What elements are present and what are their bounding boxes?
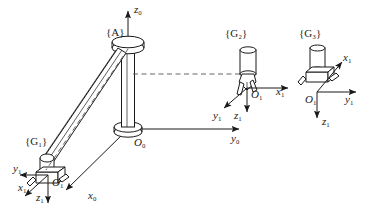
axis-label-y1-right: y1 [345, 94, 353, 106]
axis-label-y1-middle: y1 [213, 110, 221, 122]
frame-label-G2-middle: {G₂} [225, 28, 247, 39]
origin-label-O1-right: O1 [305, 94, 316, 106]
origin-label-O1-middle: O1 [251, 89, 262, 101]
upper-arm-top-edge [40, 50, 116, 162]
gripper-right-cylinder-top [310, 45, 325, 51]
origin-label-O0: O0 [134, 137, 145, 149]
frame-label-A: {A} [106, 27, 125, 38]
axis-label-x0: x0 [88, 190, 96, 202]
robot-body [40, 36, 144, 174]
gripper-right [298, 45, 339, 85]
axis-label-z0: z0 [134, 4, 142, 16]
gripper-middle-cylinder-top [240, 47, 256, 53]
vertical-column [122, 48, 135, 127]
axis-label-y1-left: y1 [13, 163, 21, 175]
frame-label-G1-left: {G₁} [25, 136, 47, 147]
gripper-right-finger-a [298, 76, 306, 85]
origin-label-O1-left: O1 [52, 177, 63, 189]
upper-arm-link [42, 48, 126, 167]
axis-label-z1-left: z1 [36, 192, 44, 204]
robot-frames-diagram: {A} z0 O0 y0 x0 {G₁} O1 y1 x1 z1 {G₂} O1… [0, 0, 370, 212]
axis-y1-middle-line [224, 88, 247, 108]
axis-x0-line [66, 129, 128, 190]
wrist-housing-top [40, 154, 54, 162]
gripper-left-finger-a [27, 177, 36, 186]
gripper-right-body [306, 72, 328, 82]
frame-label-G3-right: {G₃} [299, 28, 321, 39]
axis-label-z1-right: z1 [322, 116, 330, 128]
axis-label-x1-left: x1 [18, 182, 26, 194]
axis-label-y0: y0 [231, 133, 239, 145]
axis-label-x1-right: x1 [343, 52, 351, 64]
axis-label-z1-middle: z1 [234, 110, 242, 122]
axis-label-x1-middle: x1 [276, 86, 284, 98]
